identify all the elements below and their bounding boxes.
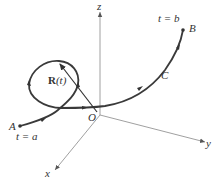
start-param-label: t = a: [16, 130, 38, 142]
x-axis-label: x: [44, 167, 50, 179]
curve-c: [20, 30, 183, 126]
vector-r-arg: (t): [56, 74, 67, 87]
point-a: [18, 124, 22, 128]
y-axis: [100, 115, 205, 142]
curve-arrow-4: [82, 106, 88, 110]
position-vector-r: [60, 64, 97, 112]
point-b-label: B: [189, 22, 196, 34]
vector-r-label: R(t): [48, 74, 67, 87]
space-curve-diagram: z y x O A t = a B t = b C R(t): [0, 0, 223, 188]
point-b: [181, 28, 185, 32]
end-param-label: t = b: [158, 12, 180, 24]
y-axis-label: y: [205, 137, 211, 149]
z-axis-label: z: [96, 0, 102, 12]
curve-arrow-5: [137, 86, 143, 91]
x-axis: [55, 115, 100, 170]
point-a-label: A: [8, 120, 16, 132]
origin-label: O: [88, 111, 96, 123]
curve-c-label: C: [161, 69, 169, 81]
